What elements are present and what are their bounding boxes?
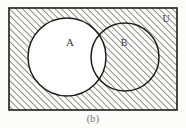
set-label-b: B — [121, 37, 128, 48]
universe-label-u: U — [162, 13, 170, 24]
venn-diagram-figure: A B U (b) — [0, 0, 186, 128]
figure-caption: (b) — [0, 113, 186, 125]
shaded-region-a-complement — [9, 8, 177, 110]
set-label-a: A — [66, 36, 74, 48]
venn-diagram-canvas: A B U — [0, 0, 186, 128]
